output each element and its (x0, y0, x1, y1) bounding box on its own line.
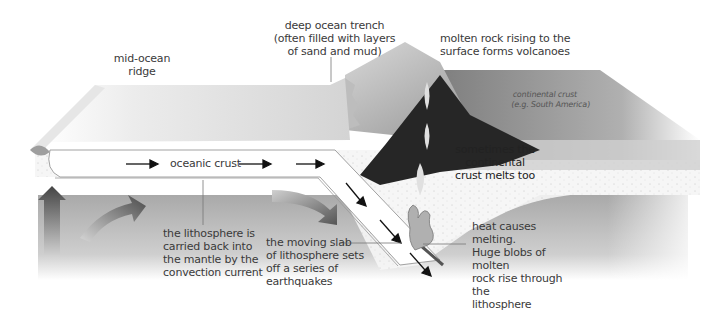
label-mid-ocean-ridge: mid-ocean ridge (112, 52, 172, 78)
label-continental-crust: continental crust (e.g. South America) (511, 90, 604, 110)
label-continental-melt: sometimes the continental crust melts to… (430, 143, 560, 182)
subduction-diagram: mid-ocean ridge deep ocean trench (often… (0, 0, 715, 311)
label-moving-slab: the moving slab of lithosphere sets off … (266, 236, 366, 288)
label-deep-ocean-trench: deep ocean trench (often filled with lay… (272, 19, 397, 58)
label-volcanoes: molten rock rising to the surface forms … (440, 32, 580, 58)
label-oceanic-crust: oceanic crust (170, 157, 260, 170)
label-lithosphere-carried: the lithosphere is carried back into the… (163, 227, 263, 279)
label-heat-melting: heat causes melting. Huge blobs of molte… (472, 220, 582, 311)
